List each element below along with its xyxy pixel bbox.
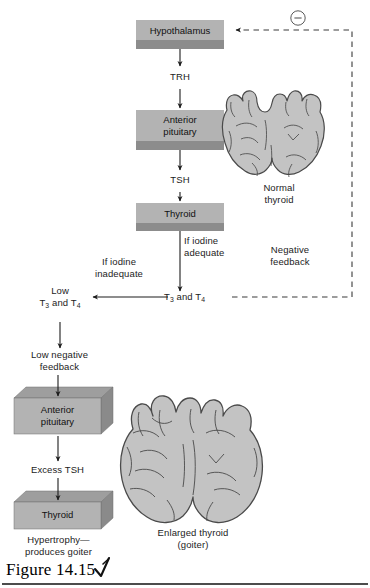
label-low-t3-and-t4-line2: T3 and T4 bbox=[20, 297, 100, 311]
label-negative-feedback-line1: Negative bbox=[252, 244, 328, 256]
label-low-negative-feedback: Low negative feedback bbox=[12, 349, 107, 372]
box-label-anterior-pituitary: Anterior pituitary bbox=[136, 114, 224, 137]
label-low-negative-feedback-line1: Low negative bbox=[12, 349, 107, 361]
caption-enlarged-thyroid: Enlarged thyroid (goiter) bbox=[134, 527, 252, 550]
check-mark-annotation-icon bbox=[92, 556, 112, 578]
figure-caption-label: Figure 14.15 bbox=[6, 560, 95, 580]
box-label-anterior-pituitary-line1: Anterior bbox=[136, 114, 224, 126]
label-negative-feedback: Negative feedback bbox=[252, 244, 328, 267]
caption-normal-thyroid: Normal thyroid bbox=[238, 182, 320, 205]
label-if-iodine-inadequate-line2: inadequate bbox=[79, 268, 159, 280]
caption-normal-thyroid-line2: thyroid bbox=[238, 194, 320, 206]
enlarged-thyroid-illustration bbox=[121, 396, 263, 523]
box-label-hypothalamus: Hypothalamus bbox=[136, 25, 224, 37]
box-label-anterior-pituitary-2-line1: Anterior bbox=[14, 404, 101, 416]
label-if-iodine-inadequate: If iodine inadequate bbox=[79, 256, 159, 279]
label-low-t3-and-t4: Low T3 and T4 bbox=[20, 285, 100, 311]
label-hypertrophy-line1: Hypertrophy— bbox=[6, 534, 111, 546]
box-label-anterior-pituitary-2: Anterior pituitary bbox=[14, 404, 101, 427]
circled-minus-icon bbox=[291, 11, 305, 25]
label-hypertrophy-produces-goiter: Hypertrophy— produces goiter bbox=[6, 534, 111, 557]
box-label-thyroid: Thyroid bbox=[136, 208, 224, 220]
box-label-thyroid-2: Thyroid bbox=[14, 509, 101, 521]
caption-enlarged-thyroid-line1: Enlarged thyroid bbox=[134, 527, 252, 539]
caption-normal-thyroid-line1: Normal bbox=[238, 182, 320, 194]
label-if-iodine-adequate: If iodine adequate bbox=[184, 235, 248, 258]
arrow-label-trh: TRH bbox=[150, 71, 210, 83]
arrow-label-excess-tsh: Excess TSH bbox=[14, 464, 101, 476]
box-label-anterior-pituitary-line2: pituitary bbox=[136, 126, 224, 138]
caption-enlarged-thyroid-line2: (goiter) bbox=[134, 539, 252, 551]
normal-thyroid-illustration bbox=[223, 91, 325, 177]
label-low-t3-and-t4-line1: Low bbox=[20, 285, 100, 297]
label-t3-and-t4: T3 and T4 bbox=[164, 291, 236, 305]
label-if-iodine-inadequate-line1: If iodine bbox=[79, 256, 159, 268]
label-negative-feedback-line2: feedback bbox=[252, 256, 328, 268]
label-t3-and-t4-text: T3 and T4 bbox=[164, 291, 205, 302]
label-if-iodine-adequate-line1: If iodine bbox=[184, 235, 248, 247]
arrow-label-tsh: TSH bbox=[150, 174, 210, 186]
box-label-anterior-pituitary-2-line2: pituitary bbox=[14, 416, 101, 428]
label-low-negative-feedback-line2: feedback bbox=[12, 361, 107, 373]
figure-canvas: Hypothalamus Anterior pituitary Thyroid … bbox=[0, 0, 370, 588]
label-if-iodine-adequate-line2: adequate bbox=[184, 247, 248, 259]
